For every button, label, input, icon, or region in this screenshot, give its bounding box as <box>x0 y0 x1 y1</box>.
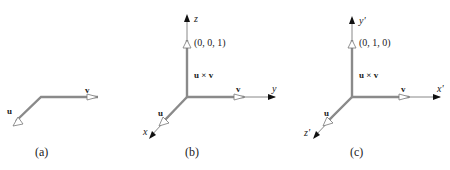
label-uxv: u × v <box>194 70 214 80</box>
panel-b: z y x (0, 0, 1) u × v v u (b) <box>142 13 277 159</box>
arrowhead-uxv-icon <box>183 40 191 48</box>
axis-label-z-prime: z' <box>303 127 311 138</box>
axis-label-x-prime: x' <box>436 83 444 94</box>
label-v: v <box>85 85 90 95</box>
x-prime-arrow-icon <box>433 94 441 100</box>
arrowhead-u-icon <box>13 117 23 126</box>
arrowhead-v-icon <box>399 94 410 100</box>
label-u: u <box>7 106 12 116</box>
vector-u <box>163 97 187 122</box>
axis-label-x: x <box>142 126 148 137</box>
vector-u <box>327 97 352 122</box>
figure: u v (a) z y x (0, 0, 1) u × v v u (b) <box>0 0 450 170</box>
z-arrow-icon <box>184 14 190 22</box>
point-label: (0, 1, 0) <box>359 37 391 49</box>
label-u: u <box>324 108 329 118</box>
caption-c: (c) <box>350 145 363 159</box>
caption-a: (a) <box>35 145 48 159</box>
panel-a: u v (a) <box>7 85 98 159</box>
vectors-u-v <box>16 97 98 121</box>
arrowhead-v-icon <box>234 94 245 100</box>
y-prime-arrow-icon <box>349 16 355 24</box>
arrowhead-uxv-icon <box>348 40 356 48</box>
axis-label-z: z <box>193 13 198 24</box>
caption-b: (b) <box>185 145 199 159</box>
axis-label-y-prime: y' <box>358 15 366 26</box>
axis-label-y: y <box>271 83 277 94</box>
label-v: v <box>401 84 406 94</box>
label-v: v <box>236 84 241 94</box>
label-u: u <box>158 108 163 118</box>
point-label: (0, 0, 1) <box>194 37 226 49</box>
panel-c: y' x' z' (0, 1, 0) u × v v u (c) <box>303 15 444 159</box>
y-arrow-icon <box>268 94 276 100</box>
label-uxv: u × v <box>359 70 379 80</box>
